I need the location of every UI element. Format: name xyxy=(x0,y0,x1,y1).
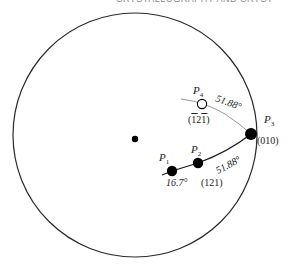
center-pole xyxy=(132,136,138,142)
angle-p2-p3-label: 51.88° xyxy=(214,154,243,176)
pole-p2-index: (121) xyxy=(201,177,223,189)
pole-p2-label: P2 xyxy=(190,143,202,158)
stereogram: P1 P2 P3 P4 (121) (010) (121) 16.7° 51.8… xyxy=(0,0,293,268)
primitive-circle xyxy=(13,13,257,257)
angle-p3-p4-label: 51.88° xyxy=(214,93,243,112)
pole-p4-label: P4 xyxy=(192,84,204,99)
pole-p2-marker xyxy=(193,158,203,168)
pole-p1-marker xyxy=(167,166,177,176)
pole-p4-marker xyxy=(197,99,206,108)
pole-p1-label: P1 xyxy=(158,151,170,166)
pole-p3-marker xyxy=(245,128,257,140)
svg-text:(121): (121) xyxy=(188,114,210,126)
pole-p3-index: (010) xyxy=(257,135,279,147)
angle-p1-p2-label: 16.7° xyxy=(166,177,188,188)
pole-p3-label: P3 xyxy=(263,113,275,128)
pole-p4-index: (121) xyxy=(188,114,210,127)
